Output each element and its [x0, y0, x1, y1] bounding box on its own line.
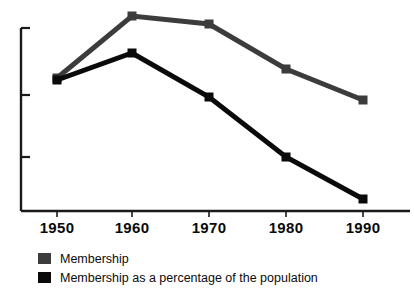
data-point-marker: [282, 65, 291, 74]
y-axis: [21, 28, 30, 211]
x-axis-tick-label: 1960: [115, 219, 150, 236]
line-chart: 19501960197019801990 Membership Membersh…: [0, 0, 414, 301]
data-point-marker: [128, 49, 137, 58]
data-point-marker: [359, 96, 368, 105]
series-line: [57, 53, 363, 199]
x-axis-tick-label: 1950: [40, 219, 75, 236]
legend-item: Membership as a percentage of the popula…: [38, 268, 318, 287]
data-point-marker: [128, 12, 137, 21]
data-point-marker: [53, 76, 62, 85]
data-point-marker: [282, 153, 291, 162]
chart-legend: Membership Membership as a percentage of…: [38, 249, 318, 287]
legend-item-label: Membership as a percentage of the popula…: [60, 271, 318, 285]
series-line: [57, 16, 363, 100]
x-axis-tick-label: 1980: [269, 219, 304, 236]
data-point-marker: [205, 93, 214, 102]
data-series: [53, 12, 368, 105]
x-axis-tick-label: 1990: [346, 219, 381, 236]
legend-swatch-icon: [38, 253, 51, 264]
x-axis: [21, 211, 410, 217]
data-point-marker: [205, 20, 214, 29]
x-axis-tick-label: 1970: [192, 219, 227, 236]
data-series: [53, 49, 368, 204]
legend-swatch-icon: [38, 272, 51, 283]
data-series-layer: [53, 12, 368, 204]
legend-item-label: Membership: [60, 252, 129, 266]
legend-item: Membership: [38, 249, 318, 268]
data-point-marker: [359, 195, 368, 204]
